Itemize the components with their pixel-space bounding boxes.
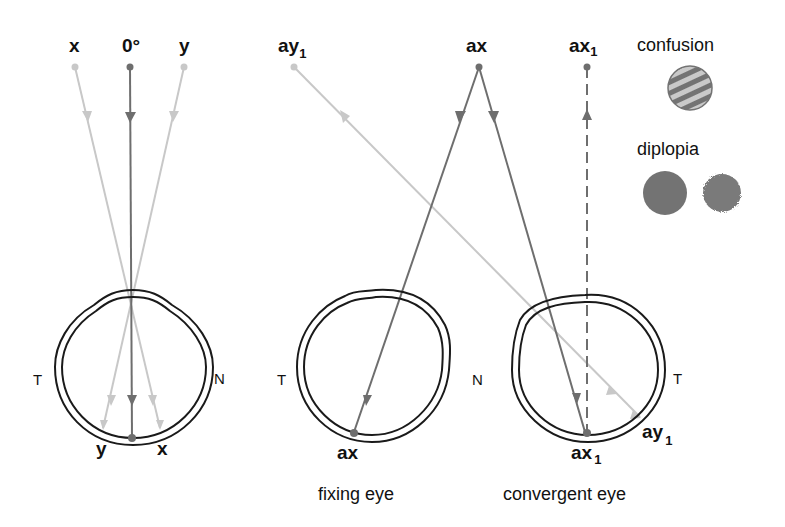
caption-fixing-eye: fixing eye: [318, 484, 394, 504]
convergent-eyeball-inner: [519, 302, 658, 435]
ray-zero: [130, 67, 132, 438]
binocular-vision-diagram: x 0° y T N y x ay1: [0, 0, 785, 527]
arrow-icon: [488, 111, 499, 123]
legend: confusion diplopia: [637, 35, 741, 215]
label-ax1-top: ax1: [569, 35, 597, 59]
ray-y: [103, 67, 184, 428]
arrow-icon: [148, 395, 157, 406]
label-ax-top: ax: [466, 35, 488, 56]
label-convergent-retina-ay1: ay1: [642, 421, 672, 448]
strabismus-diagram: ay1 ax ax1 T N ax fixing eye: [277, 35, 682, 504]
ray-ax-convergent: [479, 67, 585, 432]
arrow-icon: [127, 395, 137, 406]
caption-convergent-eye: convergent eye: [503, 484, 626, 504]
arrow-icon: [100, 420, 108, 430]
fixing-eyeball-inner: [304, 297, 443, 435]
fovea-point: [128, 434, 136, 442]
label-convergent-temporal: T: [673, 370, 682, 387]
label-fixing-temporal: T: [277, 371, 286, 388]
label-fixing-nasal: N: [472, 371, 483, 388]
arrow-icon: [125, 112, 136, 123]
left-eye-diagram: x 0° y T N y x: [33, 35, 225, 459]
label-retina-x: x: [157, 438, 168, 459]
label-nasal: N: [214, 370, 225, 387]
label-retina-y: y: [96, 438, 107, 459]
label-diplopia: diplopia: [637, 139, 700, 159]
diplopia-disc-blurred-icon: [703, 174, 741, 212]
label-y-top: y: [179, 35, 190, 56]
diplopia-disc-sharp-icon: [643, 171, 687, 215]
fixing-fovea-point: [350, 429, 358, 437]
label-zero-degree: 0°: [122, 35, 140, 56]
confusion-disc-icon: [668, 66, 712, 110]
label-temporal: T: [33, 371, 42, 388]
label-ay1-top: ay1: [278, 35, 306, 61]
arrow-icon: [572, 393, 581, 404]
arrow-icon: [156, 420, 164, 430]
arrow-icon: [169, 111, 179, 122]
label-confusion: confusion: [637, 35, 714, 55]
convergent-retina-point: [583, 429, 591, 437]
convergent-eyeball-outer: [512, 295, 665, 442]
arrow-icon: [582, 109, 592, 120]
label-convergent-retina-ax1: ax1: [571, 442, 601, 467]
label-x-top: x: [69, 35, 80, 56]
label-fixing-retina-ax: ax: [337, 442, 359, 463]
ray-ax-fixing: [354, 67, 479, 432]
